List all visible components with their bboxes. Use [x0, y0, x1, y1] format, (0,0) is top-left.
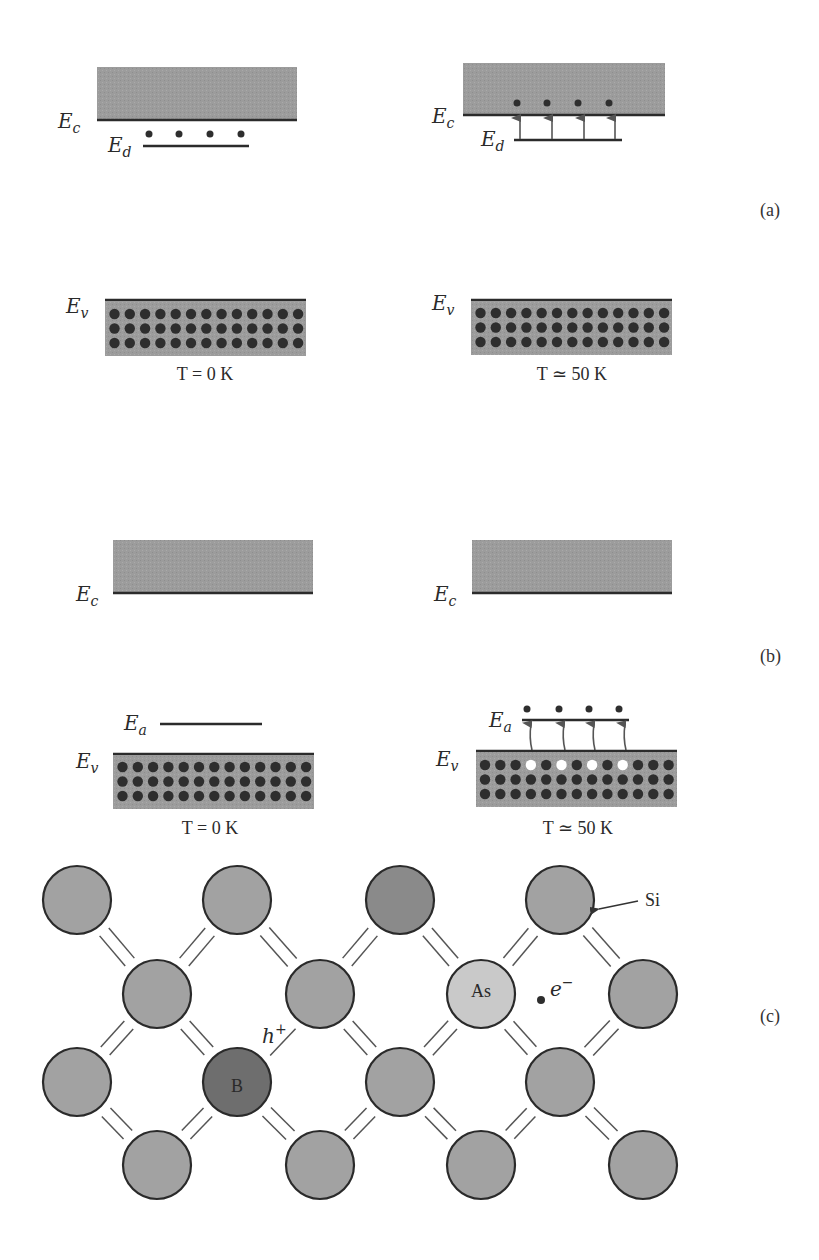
valence-electron [194, 776, 204, 786]
valence-electron [133, 762, 143, 772]
valence-electron [148, 791, 158, 801]
valence-electron [262, 309, 272, 319]
silicon-atom [447, 1131, 515, 1199]
panel-c-lattice: B As h+ e− Si [43, 866, 677, 1199]
valence-electron [278, 338, 288, 348]
valence-electron [510, 774, 520, 784]
valence-electron [475, 308, 485, 318]
valence-electron [552, 308, 562, 318]
valence-electron [140, 309, 150, 319]
excitation-arrows [520, 118, 615, 139]
valence-electron [480, 789, 490, 799]
valence-electron [301, 776, 311, 786]
temperature-label: T = 0 K [182, 818, 238, 838]
panel-b-right: Ec Ea Ev T ≃ 50 K [433, 540, 677, 838]
bond-line [514, 1117, 535, 1139]
valence-electron [506, 322, 516, 332]
valence-electron [240, 762, 250, 772]
valence-electron [293, 309, 303, 319]
valence-electron [293, 323, 303, 333]
valence-electron [278, 309, 288, 319]
bond-line [189, 936, 215, 966]
valence-electron [117, 776, 127, 786]
valence-electron [567, 308, 577, 318]
silicon-atom [366, 1048, 434, 1116]
valence-electron [644, 308, 654, 318]
valence-electron [598, 322, 608, 332]
valence-electron [628, 337, 638, 347]
temperature-label: T = 0 K [177, 364, 233, 384]
valence-electron [155, 338, 165, 348]
silicon-atom [123, 1131, 191, 1199]
valence-electron [644, 322, 654, 332]
valence-electron [556, 789, 566, 799]
valence-electron [567, 322, 577, 332]
temperature-label: T ≃ 50 K [537, 364, 607, 384]
valence-electron [541, 774, 551, 784]
valence-electron [286, 776, 296, 786]
valence-electron [582, 337, 592, 347]
electron-label: e− [550, 974, 574, 1001]
ev-label: Ev [65, 294, 89, 321]
valence-electron [216, 309, 226, 319]
valence-electron [247, 323, 257, 333]
bond-line [503, 928, 528, 958]
valence-electron [232, 323, 242, 333]
hole [556, 760, 566, 770]
silicon-atom [526, 1048, 594, 1116]
valence-electron [293, 338, 303, 348]
hole [618, 760, 628, 770]
valence-electron [633, 774, 643, 784]
valence-electron [247, 309, 257, 319]
valence-electron [602, 760, 612, 770]
valence-electron [179, 762, 189, 772]
hole [587, 760, 597, 770]
valence-electron [179, 791, 189, 801]
valence-electron [521, 337, 531, 347]
semiconductor-doping-figure: Ec Ed Ev T = 0 K Ec Ed [0, 0, 819, 1260]
valence-electron [480, 760, 490, 770]
valence-electron [140, 338, 150, 348]
valence-electron [582, 308, 592, 318]
valence-electron [240, 791, 250, 801]
ec-label: Ec [75, 582, 99, 609]
panel-a-right: Ec Ed Ev T ≃ 50 K [431, 63, 672, 384]
valence-electron [633, 760, 643, 770]
silicon-atom [123, 960, 191, 1028]
valence-electron [155, 309, 165, 319]
valence-electron [587, 774, 597, 784]
silicon-atom [43, 1048, 111, 1116]
ev-label: Ev [75, 749, 99, 776]
silicon-atom [43, 866, 111, 934]
bond-line [345, 1108, 367, 1131]
valence-electron [648, 760, 658, 770]
valence-electron [602, 774, 612, 784]
bond-line [109, 928, 135, 958]
valence-electron [537, 308, 547, 318]
boron-label: B [231, 1076, 243, 1096]
silicon-atom [286, 1131, 354, 1199]
conduction-band [472, 540, 672, 593]
valence-electron [628, 308, 638, 318]
valence-electron [163, 776, 173, 786]
valence-electron [541, 789, 551, 799]
valence-electron [628, 322, 638, 332]
valence-electron [224, 762, 234, 772]
valence-electron [541, 760, 551, 770]
valence-electron [270, 776, 280, 786]
valence-electron [301, 762, 311, 772]
valence-electron [194, 791, 204, 801]
valence-electron [209, 762, 219, 772]
valence-electron [117, 791, 127, 801]
valence-electron [125, 309, 135, 319]
valence-electron [209, 776, 219, 786]
valence-electron [659, 322, 669, 332]
valence-electron [495, 789, 505, 799]
acceptor-electrons [524, 706, 623, 713]
bond-line [592, 928, 619, 959]
valence-electron [262, 323, 272, 333]
valence-electron [537, 337, 547, 347]
hole [526, 760, 536, 770]
valence-electron [613, 337, 623, 347]
valence-electron [179, 776, 189, 786]
